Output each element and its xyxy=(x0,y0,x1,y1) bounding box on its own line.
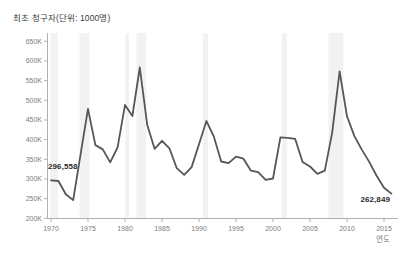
recession-band xyxy=(329,33,344,219)
x-tick-label: 2005 xyxy=(302,225,318,232)
x-axis-ticks: 1970197519801985199019952000200520102015 xyxy=(43,219,392,233)
x-tick-label: 1990 xyxy=(191,225,207,232)
y-axis-ticks: 200K250K300K350K400K450K500K550K600K650K xyxy=(26,38,48,222)
y-tick-label: 200K xyxy=(26,215,43,222)
x-tick-label: 2010 xyxy=(339,225,355,232)
recession-band xyxy=(125,33,129,219)
recession-band xyxy=(50,33,57,219)
y-tick-label: 650K xyxy=(26,38,43,45)
x-tick-label: 1980 xyxy=(117,225,133,232)
recession-band xyxy=(136,33,146,219)
claims-line-chart: 200K250K300K350K400K450K500K550K600K650K… xyxy=(0,0,411,253)
axes xyxy=(48,33,399,219)
last-point-value-label: 262,849 xyxy=(330,195,390,204)
y-tick-label: 350K xyxy=(26,156,43,163)
y-tick-label: 450K xyxy=(26,116,43,123)
x-tick-label: 1995 xyxy=(228,225,244,232)
y-tick-label: 550K xyxy=(26,77,43,84)
x-axis-title: 연도 xyxy=(340,233,390,244)
y-tick-label: 400K xyxy=(26,136,43,143)
recession-band xyxy=(282,33,287,219)
y-tick-label: 300K xyxy=(26,175,43,182)
first-point-value-label: 296,558 xyxy=(48,162,78,171)
y-tick-label: 600K xyxy=(26,57,43,64)
x-tick-label: 1975 xyxy=(80,225,96,232)
y-tick-label: 500K xyxy=(26,97,43,104)
x-tick-label: 1970 xyxy=(43,225,59,232)
y-tick-label: 250K xyxy=(26,195,43,202)
claims-chart-panel: 최초 청구자(단위: 1000명) 200K250K300K350K400K45… xyxy=(0,0,411,253)
x-tick-label: 2015 xyxy=(376,225,392,232)
recession-bands xyxy=(50,33,343,219)
x-tick-label: 2000 xyxy=(265,225,281,232)
x-tick-label: 1985 xyxy=(154,225,170,232)
